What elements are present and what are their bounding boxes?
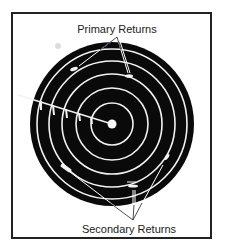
smudge bbox=[55, 43, 61, 49]
primary-return-blip bbox=[125, 74, 133, 78]
center-dot bbox=[108, 120, 117, 129]
radar-diagram: Primary Returns Secondary Returns bbox=[0, 0, 227, 251]
primary-returns-label: Primary Returns bbox=[77, 23, 157, 35]
secondary-return-blip bbox=[128, 184, 138, 187]
secondary-returns-label: Secondary Returns bbox=[82, 223, 177, 235]
